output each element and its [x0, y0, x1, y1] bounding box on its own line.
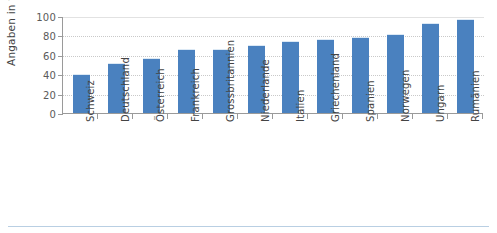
x-tick-label: Griechenland — [330, 53, 341, 122]
x-tick-label: Grossbritannien — [225, 40, 236, 122]
y-tick-label: 20 — [43, 89, 56, 100]
x-label-slot: Spanien — [343, 120, 378, 210]
x-tick-label: Rumänien — [470, 70, 481, 122]
x-tick-label: Italien — [295, 90, 306, 122]
bar-chart-figure: Angaben in % 020406080100 SchweizDeutsch… — [0, 0, 497, 233]
x-axis-labels: SchweizDeutschlandÖsterreichFrankreichGr… — [63, 120, 483, 210]
x-label-slot: Österreich — [133, 120, 168, 210]
x-label-slot: Ungarn — [413, 120, 448, 210]
x-tick-label: Niederlande — [260, 59, 271, 122]
x-tick-label: Schweiz — [85, 80, 96, 122]
x-label-slot: Rumänien — [448, 120, 483, 210]
y-tick-mark — [58, 17, 63, 18]
x-tick-mark — [482, 114, 483, 119]
x-tick-label: Ungarn — [435, 84, 446, 122]
y-tick-label: 80 — [43, 31, 56, 42]
x-tick-label: Norwegen — [400, 70, 411, 122]
y-tick-label: 40 — [43, 70, 56, 81]
y-tick-label: 100 — [36, 12, 56, 23]
y-tick-mark — [58, 75, 63, 76]
footer-divider — [8, 226, 489, 227]
y-tick-mark — [58, 56, 63, 57]
x-label-slot: Frankreich — [168, 120, 203, 210]
x-tick-label: Frankreich — [190, 68, 201, 122]
x-label-slot: Niederlande — [238, 120, 273, 210]
y-tick-label: 0 — [49, 109, 56, 120]
y-axis-title: Angaben in % — [5, 0, 17, 66]
y-tick-mark — [58, 95, 63, 96]
y-tick-label: 60 — [43, 50, 56, 61]
x-label-slot: Italien — [273, 120, 308, 210]
x-label-slot: Grossbritannien — [203, 120, 238, 210]
x-label-slot: Deutschland — [98, 120, 133, 210]
x-tick-label: Österreich — [155, 68, 166, 122]
y-tick-mark — [58, 36, 63, 37]
x-label-slot: Griechenland — [308, 120, 343, 210]
x-label-slot: Norwegen — [378, 120, 413, 210]
x-tick-label: Deutschland — [120, 57, 131, 122]
x-tick-label: Spanien — [365, 80, 376, 122]
x-label-slot: Schweiz — [63, 120, 98, 210]
